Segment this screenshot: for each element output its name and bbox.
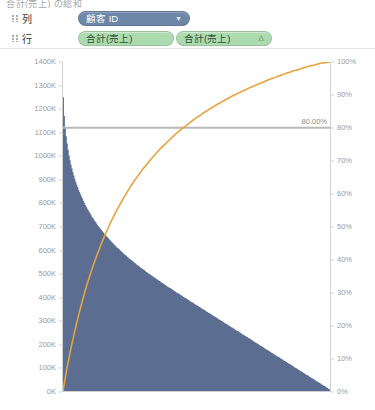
grip-icon [12,35,18,42]
y-axis-left-tick: 500K [38,270,56,278]
pill-sum-sales-2-text: 合計(売上) [184,31,230,45]
y-axis-right-tick: 50% [337,223,352,231]
pill-customer-id[interactable]: 顧客 ID ▼ [78,11,190,26]
y-axis-left-tick: 300K [38,318,56,326]
pareto-chart: 売上 0K100K200K300K400K500K600K700K800K900… [0,50,375,410]
y-axis-right-tick: 60% [337,190,352,198]
rows-pill-list[interactable]: 合計(売上) 合計(売上) △ [78,31,272,46]
pill-sum-sales-2[interactable]: 合計(売上) △ [176,31,272,46]
y-axis-left-tick: 1300K [34,82,56,90]
y-axis-left-tick: 200K [38,341,56,349]
y-axis-left-tick: 400K [38,294,56,302]
rows-shelf-label: 行 [0,31,78,46]
grip-icon [12,15,18,22]
y-axis-left-tick: 1000K [34,153,56,161]
sort-ascending-icon[interactable]: △ [259,34,264,42]
y-axis-right-tick-mark [331,326,334,327]
columns-shelf[interactable]: 列 顧客 ID ▼ [0,8,375,29]
y-axis-left: 売上 0K100K200K300K400K500K600K700K800K900… [0,62,62,392]
y-axis-right-tick-mark [331,161,334,162]
y-axis-left-tick: 700K [38,223,56,231]
y-axis-right: 売上の合計の累計(%) 0%10%20%30%40%50%60%70%80%90… [331,62,375,392]
bar-series [63,97,330,391]
y-axis-right-tick-mark [331,260,334,261]
y-axis-right-tick-mark [331,95,334,96]
y-axis-left-tick: 800K [38,200,56,208]
plot-area[interactable]: 80.00% [62,62,331,392]
y-axis-right-tick: 20% [337,322,352,330]
y-axis-right-tick: 100% [337,58,356,66]
y-axis-right-tick-mark [331,62,334,63]
chevron-down-icon[interactable]: ▼ [175,15,182,22]
pill-sum-sales-1-text: 合計(売上) [86,31,132,45]
pill-sum-sales-1[interactable]: 合計(売上) [78,31,174,46]
columns-pill-list[interactable]: 顧客 ID ▼ [78,11,190,26]
y-axis-right-tick: 90% [337,91,352,99]
y-axis-left-tick: 100K [38,365,56,373]
y-axis-right-tick-mark [331,227,334,228]
y-axis-right-tick-mark [331,128,334,129]
rows-label-text: 行 [22,31,32,46]
y-axis-left-tick: 900K [38,176,56,184]
y-axis-left-tick: 1400K [34,58,56,66]
y-axis-right-tick: 70% [337,157,352,165]
columns-shelf-label: 列 [0,11,78,26]
y-axis-right-tick: 80% [337,124,352,132]
y-axis-left-tick: 0K [47,388,56,396]
y-axis-right-tick-mark [331,392,334,393]
y-axis-right-tick: 10% [337,355,352,363]
columns-label-text: 列 [22,11,32,26]
reference-line-label: 80.00% [302,117,327,126]
pill-customer-id-text: 顧客 ID [86,11,118,25]
plot-svg [63,62,330,391]
y-axis-right-tick: 40% [337,256,352,264]
y-axis-right-tick-mark [331,293,334,294]
y-axis-right-tick: 30% [337,289,352,297]
rows-shelf[interactable]: 行 合計(売上) 合計(売上) △ [0,28,375,49]
y-axis-right-tick-mark [331,359,334,360]
y-axis-left-tick: 1200K [34,105,56,113]
y-axis-right-tick: 0% [337,388,348,396]
y-axis-left-tick: 600K [38,247,56,255]
y-axis-left-tick: 1100K [35,129,56,137]
y-axis-right-tick-mark [331,194,334,195]
